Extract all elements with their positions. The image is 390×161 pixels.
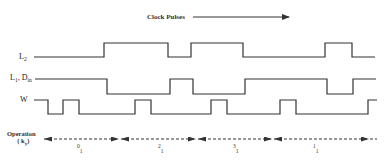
signal-label-w: W [20,96,28,104]
operation-row-label: Operation ( ky) [7,130,36,147]
waveform-l2 [34,43,375,57]
timing-diagram [0,0,390,161]
operation-label-2: 21 [158,144,164,155]
signal-label-l1-din: L1, Din [10,74,32,84]
signal-label-l2: L2 [19,53,27,63]
operation-label-3: 31 [233,144,239,155]
waveform-l1-din [35,79,376,94]
operation-label-1: 11 [313,144,319,155]
operation-label-0: 01 [77,144,83,155]
waveform-w [34,100,377,114]
clock-pulses-title: Clock Pulses [147,13,185,21]
